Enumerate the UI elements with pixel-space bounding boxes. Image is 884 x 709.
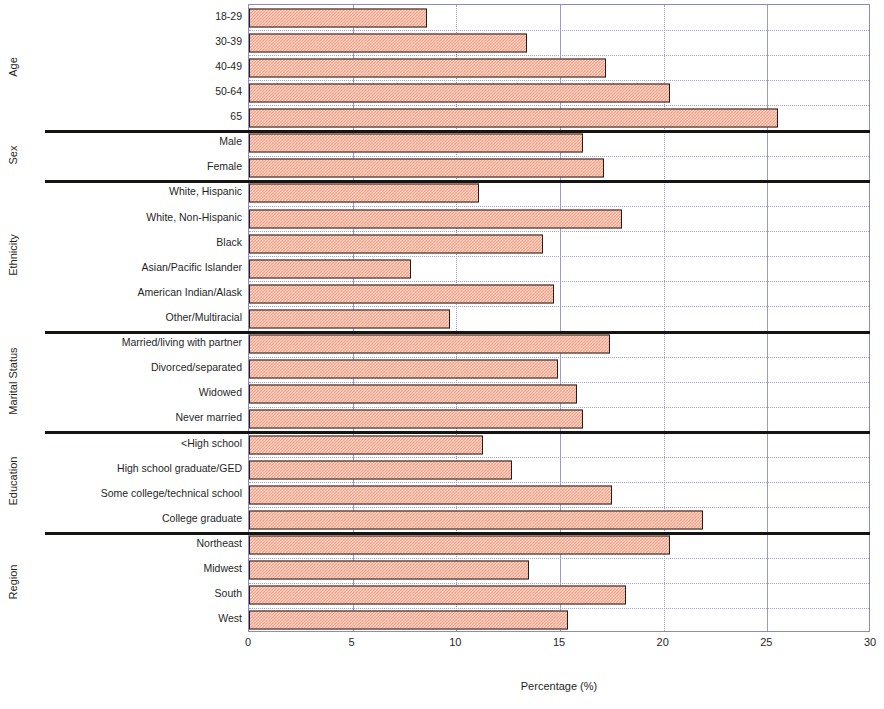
category-tick-label: White, Hispanic — [46, 186, 248, 197]
bar — [249, 184, 479, 203]
bar — [249, 209, 622, 228]
category-tick-label: College graduate — [46, 513, 248, 524]
bar — [249, 33, 527, 52]
category-tick-label: Divorced/separated — [46, 362, 248, 373]
bar-row — [249, 583, 869, 608]
bar — [249, 284, 554, 303]
x-tick-label: 0 — [245, 636, 251, 648]
bar-row — [249, 206, 869, 231]
category-tick-label: High school graduate/GED — [46, 463, 248, 474]
category-tick-label: Widowed — [46, 387, 248, 398]
bar-row — [249, 105, 869, 130]
category-tick-label: Some college/technical school — [46, 488, 248, 499]
bar — [249, 460, 512, 479]
group-label-education: Education — [0, 431, 26, 531]
group-label-text: Sex — [7, 145, 19, 164]
bar — [249, 510, 703, 529]
category-tick-label: Midwest — [46, 563, 248, 574]
bar-row — [249, 306, 869, 331]
category-tick-label: 18-29 — [46, 11, 248, 22]
bar — [249, 234, 543, 253]
category-tick-label: Asian/Pacific Islander — [46, 262, 248, 273]
x-tick-label: 30 — [864, 636, 876, 648]
bar — [249, 485, 612, 504]
x-tick-label: 15 — [553, 636, 565, 648]
x-axis-title: Percentage (%) — [248, 680, 870, 692]
group-label-text: Age — [7, 57, 19, 77]
bar-row — [249, 533, 869, 558]
bar-row — [249, 507, 869, 532]
bar — [249, 8, 427, 27]
bar — [249, 586, 626, 605]
category-label-column: 18-2930-3940-4950-6465MaleFemaleWhite, H… — [38, 0, 248, 632]
bar-row — [249, 382, 869, 407]
bar — [249, 259, 411, 278]
bar-row — [249, 357, 869, 382]
bar — [249, 561, 529, 580]
x-tick-label: 25 — [760, 636, 772, 648]
category-tick-label: Male — [46, 136, 248, 147]
bar — [249, 309, 450, 328]
bar — [249, 134, 583, 153]
bar-row — [249, 156, 869, 181]
bar-row — [249, 131, 869, 156]
group-label-age: Age — [0, 4, 26, 130]
bar-row — [249, 231, 869, 256]
bar — [249, 385, 577, 404]
category-tick-label: South — [46, 588, 248, 599]
category-tick-label: <High school — [46, 438, 248, 449]
bar-row — [249, 432, 869, 457]
category-tick-label: 65 — [46, 111, 248, 122]
group-separator — [45, 331, 870, 334]
x-tick-label: 5 — [349, 636, 355, 648]
bar-row — [249, 558, 869, 583]
group-separator — [45, 130, 870, 133]
category-tick-label: Never married — [46, 412, 248, 423]
category-tick-label: American Indian/Alask — [46, 287, 248, 298]
bar-row — [249, 80, 869, 105]
bar — [249, 159, 604, 178]
bar-row — [249, 608, 869, 633]
category-tick-label: 40-49 — [46, 61, 248, 72]
bar — [249, 335, 610, 354]
bar-row — [249, 332, 869, 357]
group-separator — [45, 180, 870, 183]
bar-row — [249, 256, 869, 281]
category-tick-label: White, Non-Hispanic — [46, 212, 248, 223]
group-label-text: Education — [7, 457, 19, 506]
group-label-sex: Sex — [0, 130, 26, 180]
group-label-text: Ethnicity — [7, 234, 19, 276]
bar — [249, 109, 778, 128]
bar-row — [249, 482, 869, 507]
group-separator — [45, 431, 870, 434]
bar-row — [249, 457, 869, 482]
bar — [249, 536, 670, 555]
bar — [249, 83, 670, 102]
x-tick-label: 20 — [657, 636, 669, 648]
horizontal-bar-chart: AgeSexEthnicityMarital StatusEducationRe… — [0, 0, 884, 709]
x-axis-ticks: 051015202530 — [248, 636, 870, 658]
category-tick-label: Other/Multiracial — [46, 312, 248, 323]
plot-area — [248, 4, 870, 632]
bar — [249, 360, 558, 379]
bar-row — [249, 181, 869, 206]
bar-row — [249, 281, 869, 306]
group-separator — [45, 532, 870, 535]
bar-row — [249, 407, 869, 432]
category-tick-label: Black — [46, 237, 248, 248]
bar-row — [249, 55, 869, 80]
bar-row — [249, 5, 869, 30]
bar — [249, 611, 568, 630]
bar-row — [249, 30, 869, 55]
group-label-region: Region — [0, 532, 26, 632]
category-tick-label: Northeast — [46, 538, 248, 549]
group-label-ethnicity: Ethnicity — [0, 180, 26, 331]
category-tick-label: 30-39 — [46, 36, 248, 47]
x-tick-label: 10 — [449, 636, 461, 648]
category-tick-label: Female — [46, 161, 248, 172]
bar — [249, 410, 583, 429]
category-tick-label: West — [46, 613, 248, 624]
bar — [249, 58, 606, 77]
group-label-text: Marital Status — [7, 347, 19, 414]
group-label-text: Region — [7, 564, 19, 599]
